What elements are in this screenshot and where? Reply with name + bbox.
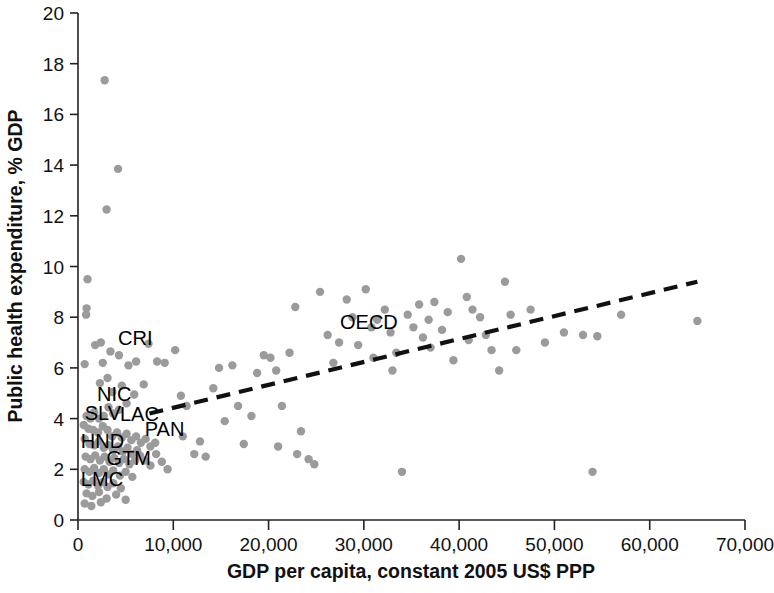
data-point [560, 328, 568, 336]
data-point [424, 316, 432, 324]
data-point [163, 465, 171, 473]
annotation-label: LMC [81, 468, 123, 490]
data-point [115, 351, 123, 359]
y-tick-label: 18 [43, 54, 64, 75]
data-point [285, 348, 293, 356]
data-point [430, 298, 438, 306]
data-point [82, 310, 90, 318]
data-point [506, 310, 514, 318]
data-point [158, 457, 166, 465]
data-point [215, 364, 223, 372]
data-point [541, 338, 549, 346]
x-tick-label: 20,000 [240, 534, 298, 555]
data-point [409, 323, 417, 331]
data-point [329, 359, 337, 367]
data-point [323, 331, 331, 339]
data-point [221, 417, 229, 425]
data-point [457, 255, 465, 263]
data-point [362, 285, 370, 293]
y-axis-ticks: 02468101214161820 [43, 3, 78, 531]
data-point [152, 450, 160, 458]
data-point [228, 361, 236, 369]
data-point [297, 427, 305, 435]
annotation-label: OECD [340, 311, 398, 333]
y-tick-label: 20 [43, 3, 64, 24]
annotation-label: PAN [145, 418, 185, 440]
scatter-chart: 02468101214161820 010,00020,00030,00040,… [0, 0, 774, 593]
chart-canvas: 02468101214161820 010,00020,00030,00040,… [0, 0, 774, 593]
data-point [463, 293, 471, 301]
data-point [161, 359, 169, 367]
x-tick-label: 60,000 [621, 534, 679, 555]
data-point [278, 402, 286, 410]
data-point [114, 165, 122, 173]
data-point [103, 374, 111, 382]
data-point [293, 450, 301, 458]
y-tick-label: 14 [43, 155, 65, 176]
data-point [91, 341, 99, 349]
data-point [398, 468, 406, 476]
y-tick-label: 6 [53, 358, 64, 379]
data-point [476, 313, 484, 321]
data-point [593, 332, 601, 340]
data-point [588, 468, 596, 476]
data-point [354, 341, 362, 349]
data-point [291, 303, 299, 311]
data-point [209, 384, 217, 392]
data-point [102, 205, 110, 213]
data-point [415, 300, 423, 308]
data-point [403, 310, 411, 318]
data-point [335, 338, 343, 346]
data-point [201, 452, 209, 460]
y-tick-label: 2 [53, 459, 64, 480]
data-point [487, 346, 495, 354]
data-point [80, 360, 88, 368]
y-tick-label: 12 [43, 206, 64, 227]
data-point [121, 496, 129, 504]
data-point [190, 450, 198, 458]
data-point [388, 366, 396, 374]
y-tick-label: 16 [43, 104, 64, 125]
x-axis-title: GDP per capita, constant 2005 US$ PPP [227, 560, 595, 582]
y-tick-label: 4 [53, 409, 64, 430]
data-point [343, 295, 351, 303]
data-point [247, 412, 255, 420]
data-point [617, 310, 625, 318]
annotation-layer: CRINICSLVLACPANHNDGTMLMCOECD [81, 311, 398, 490]
data-point [449, 356, 457, 364]
data-point [274, 442, 282, 450]
data-point [693, 317, 701, 325]
data-point [99, 359, 107, 367]
y-tick-label: 8 [53, 307, 64, 328]
data-point [132, 357, 140, 365]
x-tick-label: 0 [73, 534, 84, 555]
data-point [512, 346, 520, 354]
y-tick-label: 10 [43, 257, 64, 278]
data-point [444, 308, 452, 316]
data-point [83, 275, 91, 283]
data-point [128, 473, 136, 481]
x-tick-label: 40,000 [430, 534, 488, 555]
data-point [124, 361, 132, 369]
x-tick-label: 10,000 [144, 534, 202, 555]
data-points-layer [80, 76, 702, 510]
data-point [153, 357, 161, 365]
data-point [419, 333, 427, 341]
data-point [196, 437, 204, 445]
data-point [234, 402, 242, 410]
data-point [106, 347, 114, 355]
data-point [316, 288, 324, 296]
data-point [310, 460, 318, 468]
data-point [97, 498, 105, 506]
data-point [140, 380, 148, 388]
data-point [468, 305, 476, 313]
trend-line [149, 282, 697, 414]
data-point [438, 326, 446, 334]
data-point [526, 305, 534, 313]
data-point [177, 392, 185, 400]
axes-group [78, 13, 745, 520]
data-point [240, 440, 248, 448]
annotation-label: GTM [107, 447, 151, 469]
x-axis-ticks: 010,00020,00030,00040,00050,00060,00070,… [73, 520, 774, 555]
data-point [501, 278, 509, 286]
